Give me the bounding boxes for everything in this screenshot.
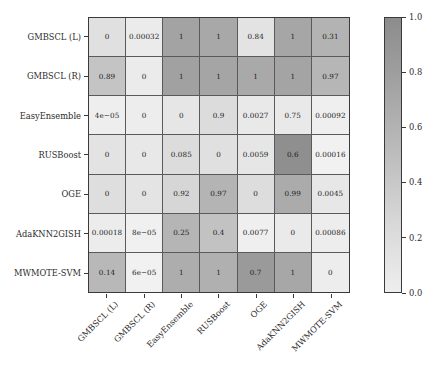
heatmap-cell-value: 1 — [290, 33, 295, 40]
colorbar-tick-text: 0.2 — [409, 234, 422, 242]
colorbar-tick-mark — [402, 72, 406, 73]
heatmap-cell: 0.75 — [275, 96, 312, 135]
heatmap-cell: 0.4 — [200, 214, 237, 253]
colorbar-tick-labels: 0.00.20.40.60.81.0 — [402, 17, 435, 293]
y-axis-label-2: EasyEnsemble — [0, 96, 82, 135]
heatmap-cell-value: 1 — [216, 33, 221, 40]
heatmap-cell: 0 — [126, 96, 163, 135]
y-axis-label-5: AdaKNN2GISH — [0, 214, 82, 253]
colorbar-tick-text: 0.4 — [409, 178, 422, 186]
heatmap-cell-value: 0.97 — [322, 73, 338, 80]
colorbar-tick-mark — [402, 127, 406, 128]
heatmap-cell-value: 0 — [142, 112, 147, 119]
heatmap-cell: 0 — [312, 253, 349, 292]
heatmap-cell-value: 0.00086 — [315, 229, 345, 236]
heatmap-cell-value: 0.4 — [213, 229, 225, 236]
heatmap-cell-value: 1 — [179, 269, 184, 276]
heatmap-cell: 1 — [275, 57, 312, 96]
y-axis-label-6: MWMOTE-SVM — [0, 254, 82, 293]
heatmap-cell-value: 8e−05 — [132, 229, 157, 236]
heatmap-cell: 0.99 — [275, 175, 312, 214]
heatmap-cell: 0 — [89, 135, 126, 174]
heatmap-cell: 0.25 — [163, 214, 200, 253]
heatmap-cell: 0.0027 — [238, 96, 275, 135]
heatmap-cell-value: 0.14 — [99, 269, 115, 276]
heatmap-cell: 0.84 — [238, 18, 275, 57]
y-axis-labels: GMBSCL (L) GMBSCL (R) EasyEnsemble RUSBo… — [0, 17, 82, 293]
heatmap-cell: 0 — [126, 135, 163, 174]
heatmap-cell-value: 0 — [142, 73, 147, 80]
heatmap-cell-value: 0.89 — [99, 73, 115, 80]
heatmap-cell-value: 0 — [142, 151, 147, 158]
heatmap-cell: 0.00032 — [126, 18, 163, 57]
colorbar-tick-text: 0.0 — [409, 289, 422, 297]
colorbar — [384, 17, 402, 293]
heatmap-cell-value: 0 — [328, 269, 333, 276]
heatmap-cell-grid: 00.00032110.8410.310.89011110.974e−05000… — [89, 18, 349, 292]
heatmap-cell-value: 0.00032 — [129, 33, 159, 40]
y-axis-label-1: GMBSCL (R) — [0, 56, 82, 95]
heatmap-cell-value: 1 — [216, 269, 221, 276]
heatmap-cell: 0.00018 — [89, 214, 126, 253]
colorbar-tick-text: 0.6 — [409, 123, 422, 131]
heatmap-cell: 0.00086 — [312, 214, 349, 253]
heatmap-cell: 8e−05 — [126, 214, 163, 253]
heatmap-cell-value: 0.25 — [173, 229, 189, 236]
heatmap-cell-value: 0.0059 — [243, 151, 269, 158]
heatmap-cell: 0.92 — [163, 175, 200, 214]
heatmap-cell: 1 — [163, 253, 200, 292]
y-axis-label-3: RUSBoost — [0, 135, 82, 174]
heatmap-cell-value: 0.00018 — [92, 229, 122, 236]
heatmap-cell: 6e−05 — [126, 253, 163, 292]
heatmap-cell-value: 0.6 — [287, 151, 299, 158]
heatmap-cell-value: 0.99 — [285, 190, 301, 197]
heatmap-cell-value: 0.0027 — [243, 112, 269, 119]
heatmap-cell: 0 — [126, 57, 163, 96]
heatmap-cell: 0 — [89, 175, 126, 214]
colorbar-tick-text: 1.0 — [409, 13, 422, 21]
heatmap-cell: 0 — [200, 135, 237, 174]
heatmap-cell-value: 1 — [216, 73, 221, 80]
heatmap-cell: 4e−05 — [89, 96, 126, 135]
heatmap-cell-value: 0.92 — [173, 190, 189, 197]
heatmap-cell: 0.9 — [200, 96, 237, 135]
heatmap-cell: 1 — [200, 18, 237, 57]
heatmap-cell: 0.97 — [200, 175, 237, 214]
heatmap-cell-value: 1 — [290, 269, 295, 276]
heatmap-cell: 1 — [200, 253, 237, 292]
heatmap-cell: 0 — [126, 175, 163, 214]
heatmap-cell-value: 0.7 — [250, 269, 262, 276]
colorbar-tick-text: 0.8 — [409, 68, 422, 76]
heatmap-cell: 0.0077 — [238, 214, 275, 253]
colorbar-tick-mark — [402, 237, 406, 238]
x-axis-label-4: OGE — [249, 299, 270, 320]
heatmap-cell-value: 6e−05 — [132, 269, 157, 276]
heatmap-cell-value: 0 — [105, 190, 110, 197]
colorbar-tick-mark — [402, 182, 406, 183]
heatmap-cell-value: 0.31 — [322, 33, 338, 40]
heatmap-cell-value: 0 — [105, 151, 110, 158]
heatmap-cell-value: 4e−05 — [95, 112, 120, 119]
heatmap-cell-value: 0.085 — [171, 151, 192, 158]
heatmap-cell: 1 — [200, 57, 237, 96]
colorbar-gradient — [384, 17, 402, 293]
heatmap-cell-value: 0 — [290, 229, 295, 236]
heatmap-cell: 0 — [238, 175, 275, 214]
heatmap-cell-value: 1 — [179, 73, 184, 80]
heatmap-cell-value: 1 — [179, 33, 184, 40]
heatmap-cell-value: 0 — [216, 151, 221, 158]
heatmap-cell: 1 — [163, 18, 200, 57]
heatmap-plot-area: 00.00032110.8410.310.89011110.974e−05000… — [88, 17, 350, 293]
heatmap-cell-value: 0.00092 — [315, 112, 345, 119]
heatmap-cell-value: 0.0045 — [318, 190, 344, 197]
heatmap-figure: GMBSCL (L) GMBSCL (R) EasyEnsemble RUSBo… — [0, 0, 435, 366]
colorbar-tick-mark — [402, 17, 406, 18]
heatmap-cell-value: 1 — [290, 73, 295, 80]
heatmap-cell: 0.0059 — [238, 135, 275, 174]
heatmap-cell-value: 0 — [105, 33, 110, 40]
heatmap-cell: 0 — [163, 96, 200, 135]
y-axis-label-4: OGE — [0, 175, 82, 214]
heatmap-cell: 0.6 — [275, 135, 312, 174]
heatmap-cell-value: 1 — [253, 73, 258, 80]
heatmap-cell-value: 0.9 — [213, 112, 225, 119]
